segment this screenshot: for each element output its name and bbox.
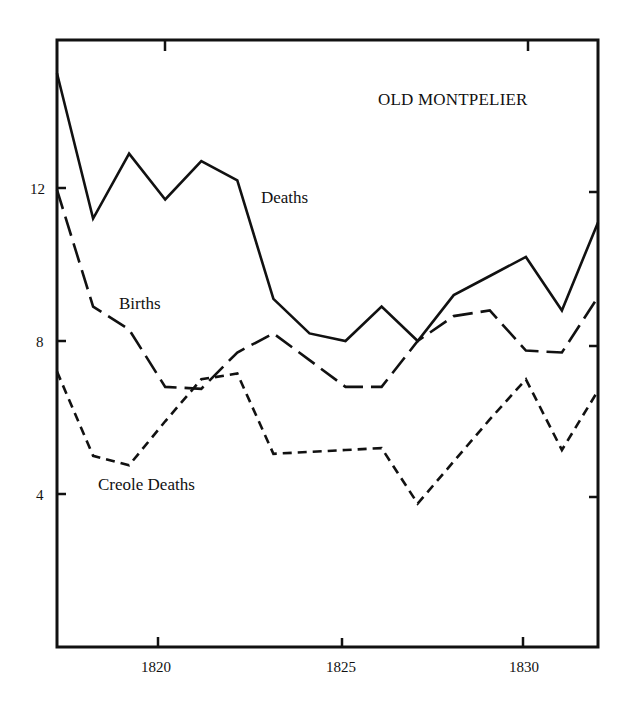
x-tick-label-1830: 1830 <box>509 659 539 675</box>
x-tick-label-1820: 1820 <box>141 659 171 675</box>
label-deaths: Deaths <box>261 188 308 207</box>
label-births: Births <box>119 294 161 313</box>
y-tick-label-4: 4 <box>36 487 44 503</box>
line-chart: 12 8 4 1820 1825 1830 OLD MONTPELIER Dea… <box>0 0 637 706</box>
series-births-line <box>57 190 598 389</box>
y-tick-label-12: 12 <box>30 181 45 197</box>
label-creole-deaths: Creole Deaths <box>98 475 195 494</box>
x-tick-label-1825: 1825 <box>326 659 356 675</box>
chart-title: OLD MONTPELIER <box>378 90 528 109</box>
y-tick-label-8: 8 <box>36 334 44 350</box>
